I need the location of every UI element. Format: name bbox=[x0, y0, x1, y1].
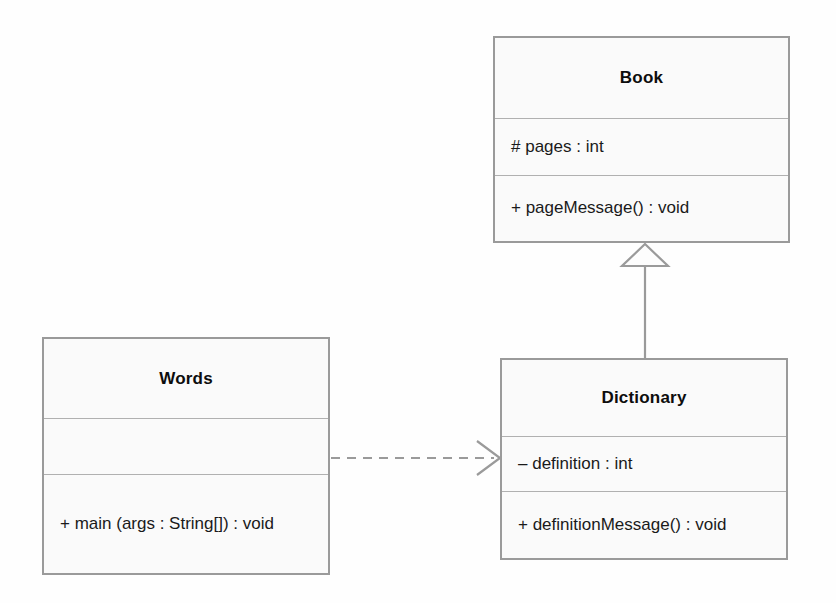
class-attributes-words-empty bbox=[44, 418, 328, 474]
open-arrowhead-icon bbox=[477, 441, 500, 475]
uml-class-words[interactable]: Words + main (args : String[]) : void bbox=[42, 337, 330, 575]
dependency-words-dictionary bbox=[331, 441, 500, 475]
class-operation-dictionary-definitionmessage: + definitionMessage() : void bbox=[502, 491, 786, 558]
uml-class-book[interactable]: Book # pages : int + pageMessage() : voi… bbox=[493, 36, 790, 243]
class-name-dictionary: Dictionary bbox=[502, 360, 786, 436]
uml-class-diagram-canvas: Book # pages : int + pageMessage() : voi… bbox=[0, 0, 836, 603]
uml-class-dictionary[interactable]: Dictionary – definition : int + definiti… bbox=[500, 358, 788, 560]
generalization-dictionary-book bbox=[622, 244, 668, 358]
class-attribute-dictionary-definition: – definition : int bbox=[502, 436, 786, 490]
hollow-triangle-arrowhead-icon bbox=[622, 244, 668, 266]
class-operation-words-main: + main (args : String[]) : void bbox=[44, 474, 328, 573]
class-operation-book-pagemessage: + pageMessage() : void bbox=[495, 175, 788, 241]
class-name-words: Words bbox=[44, 339, 328, 418]
class-name-book: Book bbox=[495, 38, 788, 118]
class-attribute-book-pages: # pages : int bbox=[495, 118, 788, 174]
